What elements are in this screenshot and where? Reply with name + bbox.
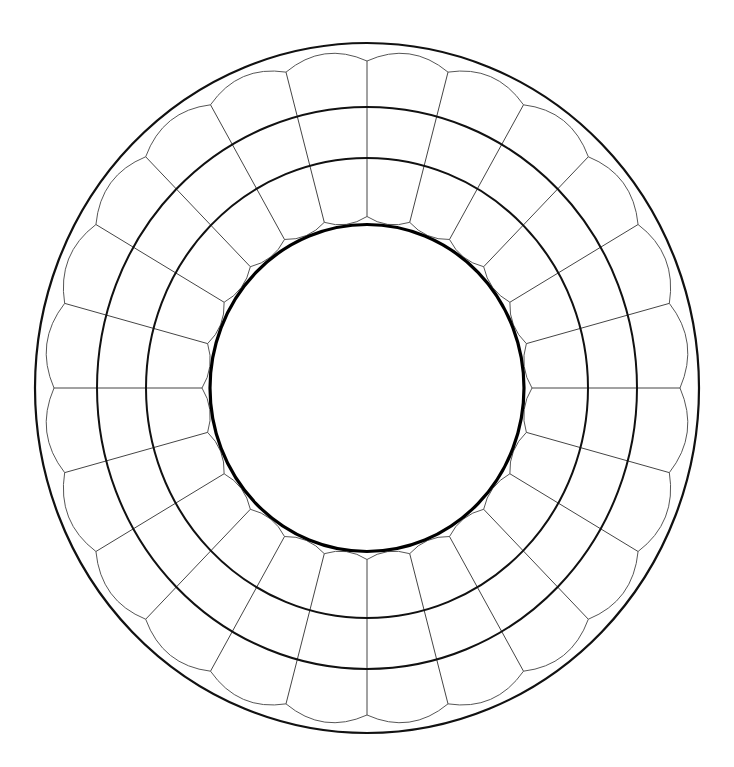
radial-spoke	[146, 509, 251, 619]
radial-spoke	[484, 157, 589, 267]
radial-spoke	[526, 432, 669, 472]
radial-spoke	[146, 157, 251, 267]
diagram-canvas	[0, 0, 734, 767]
radial-spoke	[484, 509, 589, 619]
radial-spokes	[54, 61, 680, 715]
radial-spoke	[96, 225, 224, 303]
inner-scallop-ring	[202, 217, 532, 560]
ring-diagram	[0, 0, 734, 767]
radial-spoke	[65, 303, 208, 343]
radial-spoke	[96, 474, 224, 552]
inner-thick-circle	[210, 225, 524, 552]
radial-spoke	[286, 72, 324, 222]
inner-scallop-path	[202, 217, 532, 560]
radial-spoke	[286, 554, 324, 704]
radial-spoke	[410, 554, 448, 704]
radial-spoke	[510, 474, 638, 552]
radial-spoke	[510, 225, 638, 303]
radial-spoke	[410, 72, 448, 222]
radial-spoke	[65, 432, 208, 472]
radial-spoke	[526, 303, 669, 343]
